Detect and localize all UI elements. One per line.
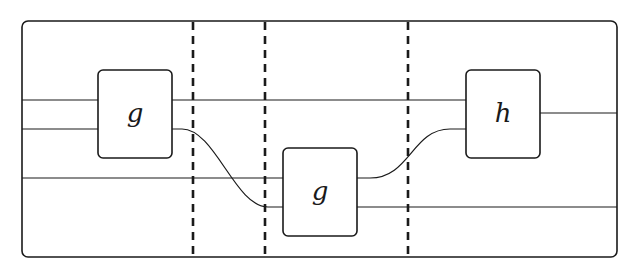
box-h: h [466, 70, 540, 158]
box-label: g [312, 176, 329, 206]
wire-g1-to-g2-crossing [172, 129, 283, 207]
box-g2: g [283, 148, 357, 236]
wire-g2-to-h [357, 129, 466, 178]
box-label: h [495, 98, 512, 128]
box-label: g [127, 98, 144, 128]
string-diagram: g g h [0, 0, 637, 271]
box-g1: g [98, 70, 172, 158]
